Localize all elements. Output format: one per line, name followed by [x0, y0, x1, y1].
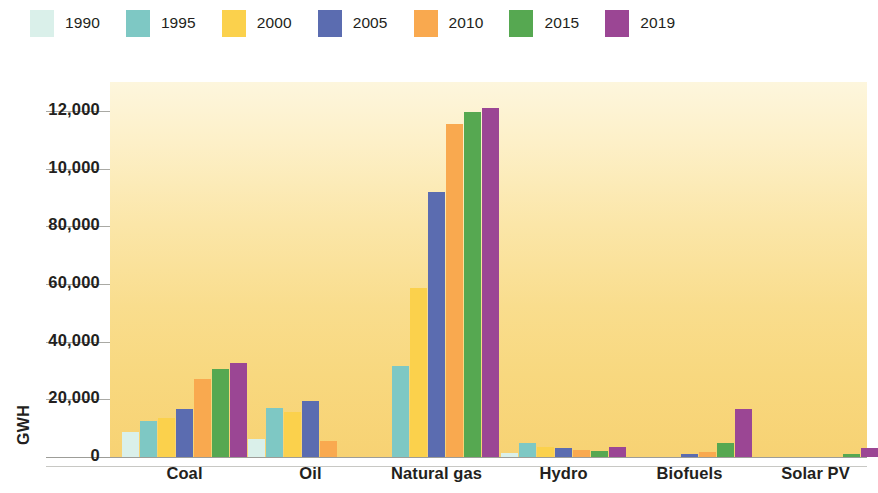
x-axis-label-solar-pv: Solar PV: [753, 464, 878, 483]
x-axis-label-coal: Coal: [122, 464, 247, 483]
legend-item-2000[interactable]: 2000: [222, 10, 292, 37]
legend-swatch-icon: [126, 10, 150, 37]
legend-item-1990[interactable]: 1990: [30, 10, 100, 37]
bar-hydro-1990[interactable]: [501, 453, 518, 457]
y-axis-tick-label: 12,000: [0, 100, 100, 119]
bar-oil-2000[interactable]: [284, 412, 301, 457]
bar-oil-1995[interactable]: [266, 408, 283, 457]
y-axis-tick-label: 60,000: [0, 273, 100, 292]
bar-oil-2010[interactable]: [320, 441, 337, 457]
x-axis-label-natural-gas: Natural gas: [374, 464, 499, 483]
y-axis-tick-label: 10,000: [0, 158, 100, 177]
bar-group-hydro: [501, 82, 626, 457]
legend-swatch-icon: [30, 10, 54, 37]
legend-item-2005[interactable]: 2005: [318, 10, 388, 37]
chart-legend: 1990199520002005201020152019: [0, 0, 867, 46]
bar-biofuels-2019[interactable]: [735, 409, 752, 457]
bar-hydro-2000[interactable]: [537, 447, 554, 457]
bar-coal-2000[interactable]: [158, 418, 175, 457]
bar-solar-pv-2015[interactable]: [843, 454, 860, 457]
bar-group-natural-gas: [374, 82, 499, 457]
bar-natural-gas-2010[interactable]: [446, 124, 463, 457]
legend-label: 2019: [640, 14, 675, 32]
bars: [248, 82, 373, 457]
bar-natural-gas-2019[interactable]: [482, 108, 499, 457]
legend-item-1995[interactable]: 1995: [126, 10, 196, 37]
x-axis-label-oil: Oil: [248, 464, 373, 483]
legend-swatch-icon: [318, 10, 342, 37]
legend-label: 1995: [161, 14, 196, 32]
bar-hydro-2019[interactable]: [609, 447, 626, 457]
bar-group-biofuels: [627, 82, 752, 457]
bar-coal-2015[interactable]: [212, 369, 229, 457]
bar-coal-2010[interactable]: [194, 379, 211, 457]
bar-coal-1995[interactable]: [140, 421, 157, 457]
legend-label: 2000: [257, 14, 292, 32]
bar-solar-pv-2019[interactable]: [861, 448, 878, 457]
bar-hydro-2005[interactable]: [555, 448, 572, 457]
bar-group-oil: [248, 82, 373, 457]
gridline: [46, 457, 867, 458]
legend-swatch-icon: [222, 10, 246, 37]
y-axis-tick-label: 20,000: [0, 388, 100, 407]
bar-coal-2019[interactable]: [230, 363, 247, 457]
x-axis-label-biofuels: Biofuels: [627, 464, 752, 483]
bar-natural-gas-2005[interactable]: [428, 192, 445, 457]
legend-item-2015[interactable]: 2015: [509, 10, 579, 37]
legend-swatch-icon: [509, 10, 533, 37]
bar-group-coal: [122, 82, 247, 457]
bar-biofuels-2015[interactable]: [717, 443, 734, 457]
x-axis-label-hydro: Hydro: [501, 464, 626, 483]
y-axis-tick-label: 40,000: [0, 331, 100, 350]
bars: [122, 82, 247, 457]
bars: [753, 82, 878, 457]
legend-label: 2005: [353, 14, 388, 32]
bar-oil-2005[interactable]: [302, 401, 319, 457]
bar-groups-layer: [110, 82, 867, 457]
y-axis-tick-label: 80,000: [0, 215, 100, 234]
legend-swatch-icon: [414, 10, 438, 37]
legend-swatch-icon: [605, 10, 629, 37]
legend-label: 1990: [65, 14, 100, 32]
bar-oil-1990[interactable]: [248, 439, 265, 457]
bar-group-solar-pv: [753, 82, 878, 457]
legend-item-2010[interactable]: 2010: [414, 10, 484, 37]
bar-hydro-2010[interactable]: [573, 450, 590, 458]
bar-natural-gas-2000[interactable]: [410, 288, 427, 457]
bar-biofuels-2010[interactable]: [699, 452, 716, 457]
bar-coal-1990[interactable]: [122, 432, 139, 457]
bars: [627, 82, 752, 457]
bars: [501, 82, 626, 457]
bar-natural-gas-1995[interactable]: [392, 366, 409, 457]
bars: [374, 82, 499, 457]
y-axis-tick-label: 0: [0, 446, 100, 465]
bar-hydro-1995[interactable]: [519, 443, 536, 457]
legend-label: 2010: [449, 14, 484, 32]
legend-item-2019[interactable]: 2019: [605, 10, 675, 37]
bar-natural-gas-2015[interactable]: [464, 112, 481, 457]
legend-label: 2015: [544, 14, 579, 32]
bar-coal-2005[interactable]: [176, 409, 193, 457]
bar-biofuels-2005[interactable]: [681, 454, 698, 457]
bar-hydro-2015[interactable]: [591, 451, 608, 457]
chart-area: GWH 12,00010,00080,00060,00040,00020,000…: [0, 46, 867, 493]
